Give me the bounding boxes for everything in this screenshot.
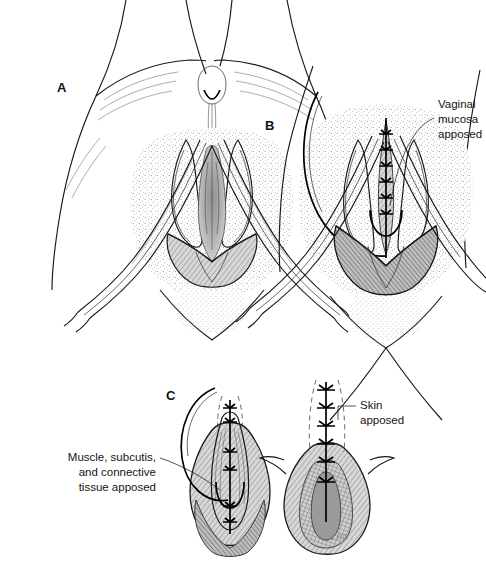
panel-b-letter: B <box>265 118 274 133</box>
b-perineal-body <box>349 290 423 341</box>
perineal-body <box>177 284 248 333</box>
panel-a-letter: A <box>57 80 67 95</box>
vaginal-mucosa-line-3: apposed <box>438 128 482 140</box>
muscle-callout-line-3: tissue apposed <box>79 481 156 493</box>
muscle-callout-line-2: and connective <box>79 466 156 478</box>
callout-muscle-subcutis: Muscle, subcutis, and connective tissue … <box>68 451 156 493</box>
vaginal-mucosa-line-2: mucosa <box>438 113 479 125</box>
vaginal-mucosa-line-1: Vaginal <box>438 98 476 110</box>
panel-c-letter: C <box>166 388 176 403</box>
skin-callout-line-2: apposed <box>360 414 404 426</box>
muscle-callout-line-1: Muscle, subcutis, <box>68 451 156 463</box>
figure-root: A <box>0 0 486 577</box>
callout-vaginal-mucosa: Vaginal mucosa apposed <box>438 98 482 140</box>
episiotomy-figure: A <box>0 0 486 577</box>
skin-callout-line-1: Skin <box>360 399 382 411</box>
artist-signature: LPD <box>331 533 348 542</box>
